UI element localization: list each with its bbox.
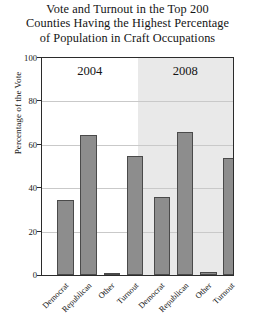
group-label-2004: 2004 xyxy=(42,64,138,79)
chart-title: Vote and Turnout in the Top 200 Counties… xyxy=(0,2,255,45)
y-tick-label-20: 20 xyxy=(7,227,37,237)
y-tick-label-40: 40 xyxy=(7,183,37,193)
y-tick-label-60: 60 xyxy=(7,140,37,150)
bar-2008-turnout xyxy=(223,158,234,275)
gridline-80 xyxy=(42,101,233,102)
gridline-60 xyxy=(42,145,233,146)
bar-2008-other xyxy=(200,272,217,275)
bar-2004-democrat xyxy=(57,200,74,275)
bar-2008-republican xyxy=(177,132,194,275)
bar-2004-other xyxy=(104,273,121,275)
bar-2004-turnout xyxy=(127,156,144,275)
bar-2004-republican xyxy=(80,135,97,275)
bar-2008-democrat xyxy=(154,197,171,275)
y-tick-label-100: 100 xyxy=(7,53,37,63)
y-axis-title: Percentage of the Vote xyxy=(13,43,23,183)
chart-title-line-2: Counties Having the Highest Percentage xyxy=(0,16,255,30)
chart-title-line-3: of Population in Craft Occupations xyxy=(0,31,255,45)
chart-title-line-1: Vote and Turnout in the Top 200 xyxy=(0,2,255,16)
y-tick-label-80: 80 xyxy=(7,96,37,106)
plot-area: 2004 2008 xyxy=(41,57,234,276)
group-label-2008: 2008 xyxy=(138,64,234,79)
y-tick-label-0: 0 xyxy=(7,270,37,280)
chart-figure: Vote and Turnout in the Top 200 Counties… xyxy=(0,0,255,336)
